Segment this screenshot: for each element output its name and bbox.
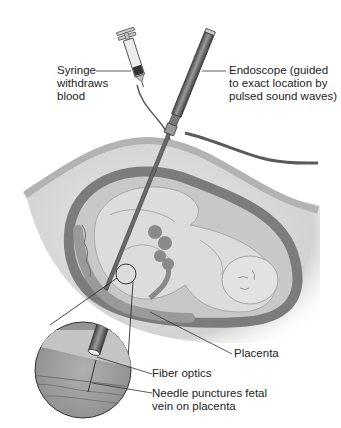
label-syringe: Syringe withdraws blood: [57, 64, 108, 103]
label-placenta: Placenta: [234, 347, 279, 360]
label-endoscope: Endoscope (guided to exact location by p…: [229, 64, 337, 103]
syringe: [116, 27, 152, 90]
label-needle: Needle punctures fetal vein on placenta: [152, 387, 267, 413]
label-fiber-optics: Fiber optics: [152, 367, 211, 380]
